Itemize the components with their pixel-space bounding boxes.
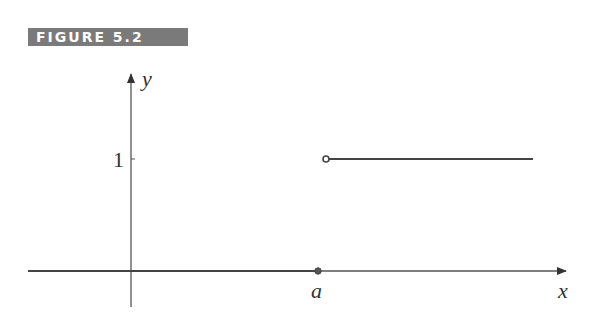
y-axis-label: y bbox=[140, 66, 152, 91]
y-tick-label: 1 bbox=[113, 147, 124, 172]
step-function-plot: y 1 a x bbox=[0, 0, 603, 329]
filled-point-icon bbox=[315, 268, 321, 274]
open-point-icon bbox=[323, 156, 329, 162]
x-tick-label: a bbox=[311, 278, 322, 303]
x-axis-label: x bbox=[557, 278, 568, 303]
